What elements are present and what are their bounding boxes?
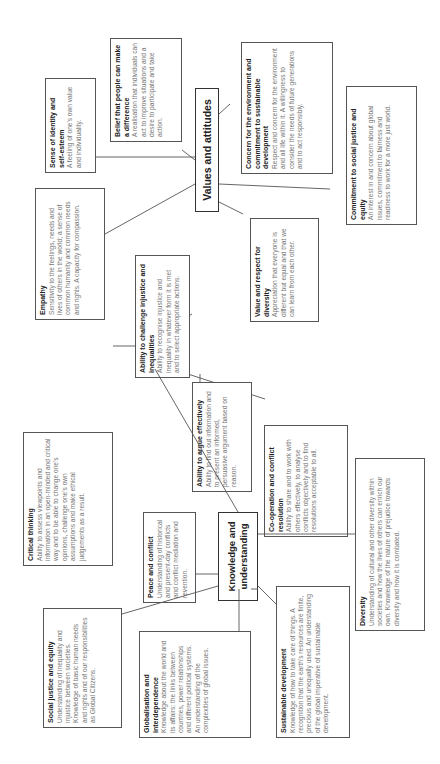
- global-citizenship-diagram: Values and attitudes Sense of identity a…: [0, 0, 440, 764]
- knowledge-connector-lines: [0, 0, 440, 764]
